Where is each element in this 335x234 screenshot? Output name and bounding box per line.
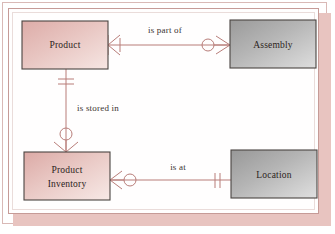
is-stored-in-label: is stored in: [77, 103, 119, 113]
entity-product-inventory[interactable]: Product Inventory: [24, 152, 110, 200]
relationship-is-part-of[interactable]: is part of: [108, 25, 230, 55]
entity-product-label: Product: [50, 40, 81, 50]
is-part-of-label: is part of: [148, 25, 182, 35]
entity-product-inventory-label-line1: Product: [52, 165, 83, 175]
entity-assembly-label: Assembly: [253, 40, 293, 50]
entity-location-label: Location: [256, 170, 291, 180]
diagram-canvas: is part of is stored in: [0, 0, 335, 234]
entity-product-inventory-box[interactable]: [24, 152, 110, 200]
relationship-is-at[interactable]: is at: [110, 162, 231, 189]
entity-product[interactable]: Product: [22, 21, 108, 69]
is-at-label: is at: [170, 162, 186, 172]
er-diagram-screenshot: is part of is stored in: [0, 0, 335, 234]
entity-product-inventory-label-line2: Inventory: [48, 179, 87, 189]
entity-assembly[interactable]: Assembly: [230, 20, 316, 68]
relationship-is-stored-in[interactable]: is stored in: [54, 69, 119, 152]
entity-location[interactable]: Location: [231, 150, 317, 198]
